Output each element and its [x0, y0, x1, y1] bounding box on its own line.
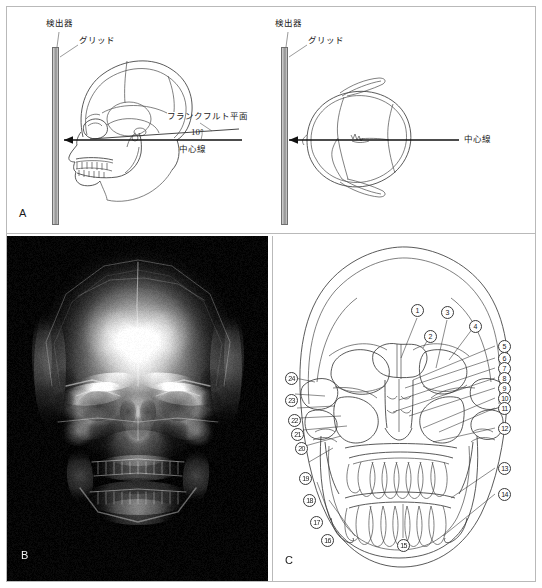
callout-15[interactable]: 15 — [397, 539, 410, 552]
callout-21[interactable]: 21 — [291, 428, 304, 441]
callout-14[interactable]: 14 — [498, 488, 511, 501]
callout-18[interactable]: 18 — [303, 494, 316, 507]
callout-17[interactable]: 17 — [310, 516, 323, 529]
callout-20[interactable]: 20 — [295, 442, 308, 455]
callout-2[interactable]: 2 — [424, 330, 437, 343]
callout-13[interactable]: 13 — [498, 462, 511, 475]
panel-c-line-drawing: 1 2 3 4 5 6 7 8 9 10 11 12 13 14 15 16 1… — [272, 236, 535, 581]
callout-11[interactable]: 11 — [498, 402, 511, 415]
grid-label-axial: グリッド — [308, 36, 344, 45]
detector-label-axial: 検出器 — [275, 19, 302, 28]
detector-bar-axial — [281, 47, 288, 225]
panel-a-lateral-drawing — [7, 7, 535, 233]
callout-4[interactable]: 4 — [469, 320, 482, 333]
skull-radiograph-image — [7, 236, 268, 581]
callout-1[interactable]: 1 — [411, 304, 424, 317]
panel-letter-c: C — [285, 554, 293, 566]
panel-letter-b: B — [21, 549, 29, 561]
callout-16[interactable]: 16 — [321, 534, 334, 547]
central-ray-label-axial: 中心線 — [464, 135, 491, 144]
figure-root: 検出器 グリッド フランクフルト平面 10° 中心線 — [0, 0, 542, 588]
callout-12[interactable]: 12 — [498, 422, 511, 435]
callout-3[interactable]: 3 — [441, 306, 454, 319]
callout-24[interactable]: 24 — [285, 372, 298, 385]
callout-19[interactable]: 19 — [299, 472, 312, 485]
panel-c-anatomy-drawing — [273, 236, 535, 581]
panel-letter-a: A — [19, 207, 27, 219]
panel-a-positioning-diagram: 検出器 グリッド フランクフルト平面 10° 中心線 — [7, 7, 535, 233]
callout-22[interactable]: 22 — [288, 414, 301, 427]
callout-23[interactable]: 23 — [285, 394, 298, 407]
panel-b-radiograph: B — [7, 236, 268, 581]
panel-divider-horizontal — [7, 233, 535, 234]
